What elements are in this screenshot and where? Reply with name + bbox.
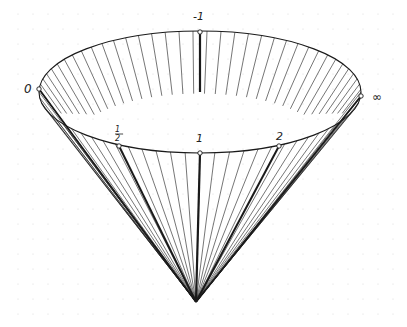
rim-inner-lines xyxy=(39,31,361,115)
label-half-denominator: 2 xyxy=(115,134,120,143)
label-zero: 0 xyxy=(24,82,32,96)
label-two: 2 xyxy=(276,130,283,143)
label-half-numerator: 1 xyxy=(115,125,120,134)
label-infinity: ∞ xyxy=(372,90,382,104)
label-one: 1 xyxy=(196,132,203,145)
cone-diagram: -1 0 ∞ 1 2 1 2 xyxy=(0,0,407,327)
cone-generator-lines xyxy=(39,89,361,302)
label-minus-one: -1 xyxy=(193,10,204,23)
